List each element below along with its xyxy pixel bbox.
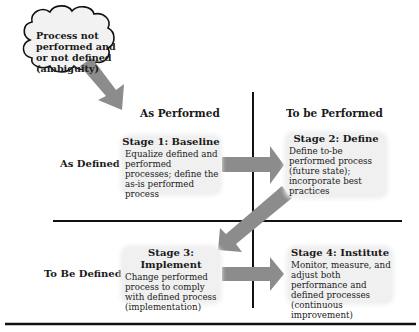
- stage-1-description: Equalize defined and performed processes…: [122, 149, 220, 199]
- stage-1-baseline: Stage 1: Baseline Equalize defined and p…: [122, 136, 220, 194]
- stage-4-description: Monitor, measure, and adjust both perfor…: [288, 260, 392, 320]
- stage-1-title: Stage 1: Baseline: [122, 136, 220, 148]
- arrow-stage2-to-stage3: [218, 186, 292, 252]
- stage-3-implement: Stage 3: Implement Change performed proc…: [122, 247, 220, 303]
- cloud-label: Process not performed and or not defined…: [36, 30, 116, 74]
- stage-2-description: Define to-be performed process (future s…: [286, 146, 386, 196]
- stage-2-define: Stage 2: Define Define to-be performed p…: [286, 133, 386, 197]
- stage-2-title: Stage 2: Define: [286, 133, 386, 145]
- column-header-to-be-performed: To be Performed: [286, 107, 383, 119]
- stage-3-title: Stage 3: Implement: [122, 247, 220, 271]
- stage-4-institute: Stage 4: Institute Monitor, measure, and…: [288, 247, 392, 303]
- stage-4-title: Stage 4: Institute: [288, 247, 392, 259]
- row-header-to-be-defined: To Be Defined: [44, 268, 122, 279]
- row-header-as-defined: As Defined: [60, 158, 120, 169]
- stage-3-description: Change performed process to comply with …: [122, 272, 220, 312]
- column-header-as-performed: As Performed: [140, 107, 220, 119]
